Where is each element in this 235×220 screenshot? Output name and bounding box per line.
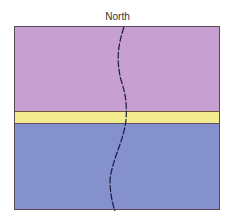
fault-line <box>0 0 235 220</box>
